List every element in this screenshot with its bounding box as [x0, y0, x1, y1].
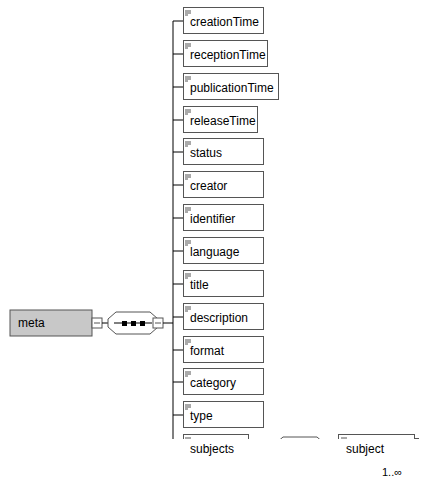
element-label-creator: creator	[190, 179, 227, 193]
element-label-description: description	[190, 311, 248, 325]
element-label-releaseTime: releaseTime	[190, 114, 256, 128]
element-label-category: category	[190, 376, 236, 390]
sequence-compositor-icon	[275, 437, 325, 439]
element-label-identifier: identifier	[190, 212, 235, 226]
element-label-creationTime: creationTime	[190, 15, 259, 29]
element-label-publicationTime: publicationTime	[190, 81, 274, 95]
element-box-subject	[339, 435, 415, 440]
element-label-receptionTime: receptionTime	[190, 48, 266, 62]
root-element-label: meta	[18, 316, 45, 330]
cardinality-label: 1..∞	[382, 465, 402, 479]
element-label-subjects: subjects	[190, 442, 234, 456]
element-label-title: title	[190, 278, 209, 292]
element-label-status: status	[190, 146, 222, 160]
element-label-language: language	[190, 245, 239, 259]
element-label-subject: subject	[346, 442, 384, 456]
element-label-type: type	[190, 409, 213, 423]
element-box-subjects	[184, 435, 249, 440]
element-label-format: format	[190, 344, 224, 358]
